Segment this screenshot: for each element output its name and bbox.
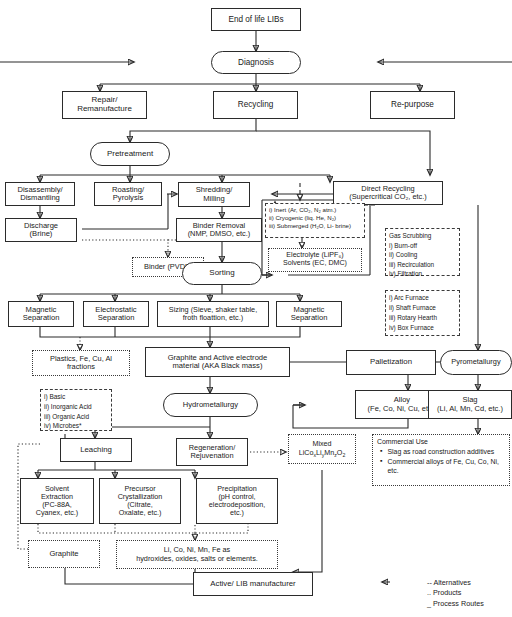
node-roasting-pyrolysis: Roasting/ Pyrolysis [94,182,162,206]
atmosphere-item-2: ii) Cryogenic (liq. He, N₂) [269,214,336,222]
gas-scrubbing-item-2: i) Burn-off [389,241,417,251]
node-slag: Slag (Li, Al, Mn, Cd, etc.) [428,390,512,419]
node-electrolyte-solvents: Electrolyte (LiPF₆) Solvents (EC, DMC) [268,248,362,272]
mixed-formula: LiCoxLiyMnzO2 [299,448,346,459]
node-mixed-compound: Mixed LiCoxLiyMnzO2 [288,434,356,464]
leach-type-3: iii) Organic Acid [44,412,89,422]
leach-type-1: i) Basic [44,392,65,402]
node-hydrometallurgy: Hydrometallurgy [163,393,258,417]
legend-label-products: Products [433,588,461,597]
node-commercial-use: Commercial Use ▪ Slag as road constructi… [372,434,510,486]
flowchart-canvas: End of life LIBs Diagnosis Repair/ Reman… [0,0,512,617]
commercial-use-header: Commercial Use [377,438,428,447]
leach-type-2: ii) Inorganic Acid [44,402,92,412]
node-black-mass: Graphite and Active electrode material (… [145,347,290,377]
leach-type-4: iv) Microbes* [44,421,82,431]
node-graphite: Graphite [28,540,100,568]
gas-scrubbing-item-4: iii) Recirculation [389,260,434,270]
node-solvent-extraction: Solvent Extraction (PC-88A, Cyanex, etc.… [20,478,94,524]
node-atmosphere-options: i) Inert (Ar, CO₂, N₂ atm.) ii) Cryogeni… [265,203,365,238]
legend-symbol-process-routes: _ [427,599,431,608]
legend-item-products: .. Products [427,588,484,598]
furnace-item-3: iii) Rotary Hearth [389,313,437,323]
commercial-use-item-text: Slag as road construction additives [387,448,494,457]
node-gas-scrubbing: Gas Scrubbing i) Burn-off ii) Cooling ii… [385,228,460,276]
commercial-use-item-text: Commercial alloys of Fe, Cu, Co, Ni, etc… [387,458,505,476]
node-leaching: Leaching [60,438,132,462]
node-magnetic-separation-1: Magnetic Separation [8,301,74,327]
gas-scrubbing-item-1: Gas Scrubbing [389,231,431,241]
node-binder-removal: Binder Removal (NMP, DMSO, etc.) [176,218,262,242]
node-repair-remanufacture: Repair/ Remanufacture [62,91,147,119]
node-end-of-life-libs: End of life LIBs [211,8,301,31]
bullet-icon: ▪ [380,448,382,457]
node-sorting: Sorting [182,262,262,285]
furnace-item-1: i) Arc Furnace [389,293,429,303]
node-salts-products: Li, Co, Ni, Mn, Fe as hydroxides, oxides… [116,540,278,569]
node-electrostatic-separation: Electrostatic Separation [83,301,149,327]
commercial-use-item: ▪ Slag as road construction additives [377,448,494,457]
node-diagnosis: Diagnosis [211,51,301,74]
node-pretreatment: Pretreatment [90,142,170,166]
node-direct-recycling: Direct Recycling (Supercritical CO₂, etc… [333,181,443,205]
bullet-icon: ▪ [380,458,382,476]
atmosphere-item-1: i) Inert (Ar, CO₂, N₂ atm.) [269,206,336,214]
node-precipitation: Precipitation (pH control, electrodeposi… [196,478,278,524]
node-palletization: Palletization [346,350,436,375]
node-furnace-options: i) Arc Furnace ii) Shaft Furnace iii) Ro… [385,290,460,336]
furnace-item-2: ii) Shaft Furnace [389,303,436,313]
atmosphere-item-3: iii) Submerged (H₂O, Li- brine) [269,222,351,230]
legend-label-alternatives: Alternatives [433,578,471,587]
legend-item-alternatives: -- Alternatives [427,578,484,588]
node-leaching-types: i) Basic ii) Inorganic Acid iii) Organic… [40,389,112,431]
gas-scrubbing-item-5: iv) Filtration [389,269,422,279]
gas-scrubbing-item-3: ii) Cooling [389,250,417,260]
node-active-lib-manufacturer: Active/ LIB manufacturer [193,572,313,596]
mixed-label: Mixed [312,439,331,448]
node-disassembly-dismantling: Disassembly/ Dismantling [5,182,75,206]
legend: -- Alternatives .. Products _ Process Ro… [427,578,484,609]
node-sizing: Sizing (Sieve, shaker table, froth float… [157,301,269,327]
node-re-purpose: Re-purpose [370,91,455,119]
legend-item-process-routes: _ Process Routes [427,599,484,609]
commercial-use-item: ▪ Commercial alloys of Fe, Cu, Co, Ni, e… [377,458,505,476]
node-plastics-fractions: Plastics, Fe, Cu, Al fractions [32,350,130,376]
node-pyrometallurgy: Pyrometallurgy [440,350,512,375]
node-precursor-crystallization: Precursor Crystallization (Citrate, Oxal… [99,478,181,524]
legend-symbol-alternatives: -- [427,578,432,587]
node-recycling: Recycling [213,91,298,119]
node-discharge-brine: Discharge (Brine) [5,218,77,242]
legend-label-process-routes: Process Routes [433,599,484,608]
legend-symbol-products: .. [427,588,431,597]
node-magnetic-separation-2: Magnetic Separation [276,301,342,327]
furnace-item-4: iv) Box Furnace [389,323,434,333]
node-regeneration-rejuvenation: Regeneration/ Rejuvenation [176,438,248,466]
node-shredding-milling: Shredding/ Milling [178,182,250,207]
